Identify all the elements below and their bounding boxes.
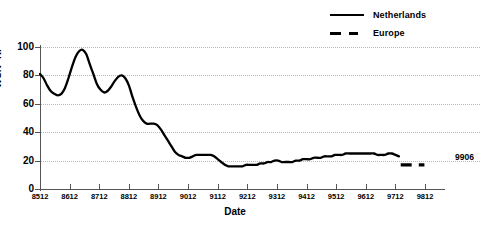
y-tick-label-40: 40 <box>4 127 34 137</box>
y-tick-label-20: 20 <box>4 156 34 166</box>
series-line-netherlands <box>40 50 399 167</box>
y-tick-label-60: 60 <box>4 99 34 109</box>
series-layer <box>40 0 480 233</box>
y-tick-label-80: 80 <box>4 70 34 80</box>
annotation-9906: 9906 <box>455 152 474 162</box>
y-axis-title: WCR--RF <box>0 46 3 88</box>
chart-root: Netherlands Europe 020406080100 85128612… <box>0 0 494 233</box>
y-tick-label-100: 100 <box>4 42 34 52</box>
